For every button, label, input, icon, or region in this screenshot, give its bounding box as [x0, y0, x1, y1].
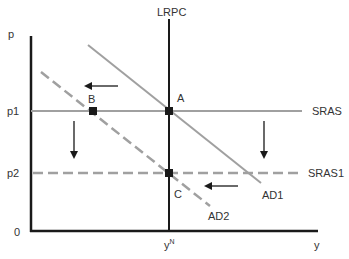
- output-tick-yn: yN: [164, 238, 175, 251]
- ad-as-diagram: p y 0 p1 p2 yN LRPC SRAS SRAS1 AD1 AD2 A…: [0, 0, 349, 259]
- sras-label: SRAS: [312, 105, 342, 117]
- ad1-curve: [88, 45, 261, 183]
- ad1-label: AD1: [262, 189, 283, 201]
- point-c-label: C: [174, 188, 182, 200]
- x-axis-label: y: [314, 239, 320, 251]
- price-tick-p1: p1: [7, 105, 19, 117]
- ad2-label: AD2: [208, 210, 229, 222]
- point-b-marker: [89, 107, 97, 115]
- price-tick-p2: p2: [7, 167, 19, 179]
- y-axis-label: p: [8, 28, 14, 40]
- sras1-label: SRAS1: [308, 167, 344, 179]
- origin-label: 0: [14, 226, 20, 238]
- point-a-marker: [165, 107, 173, 115]
- lrpc-label: LRPC: [157, 6, 186, 18]
- ad2-curve: [41, 72, 210, 206]
- point-a-label: A: [177, 92, 185, 104]
- point-c-marker: [165, 169, 173, 177]
- point-b-label: B: [88, 93, 95, 105]
